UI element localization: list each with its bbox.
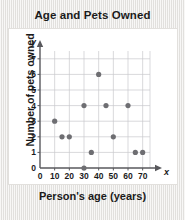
y-tick-label: 4 (26, 101, 36, 111)
y-axis-variable: y (31, 37, 36, 47)
y-tick-label: 6 (26, 69, 36, 79)
x-tick-label: 70 (138, 171, 147, 181)
chart-title: Age and Pets Owned (0, 9, 185, 21)
x-tick-label: 0 (38, 171, 43, 181)
data-point (133, 150, 138, 155)
x-axis-variable: x (164, 167, 169, 177)
data-point (140, 150, 145, 155)
x-tick-label: 40 (94, 171, 103, 181)
data-points (40, 41, 164, 168)
y-tick-label: 2 (26, 132, 36, 142)
chart-figure: Age and Pets Owned Number of pets owned … (0, 0, 185, 220)
data-point (52, 119, 57, 124)
plot-area: 01020304050607001234567xy (40, 41, 164, 168)
y-tick-label: 0 (26, 163, 36, 173)
data-point (103, 103, 108, 108)
data-point (67, 134, 72, 139)
data-point (81, 103, 86, 108)
data-point (81, 165, 86, 170)
y-tick-label: 5 (26, 85, 36, 95)
data-point (89, 150, 94, 155)
y-tick-label: 7 (26, 54, 36, 64)
y-tick-label: 1 (26, 147, 36, 157)
data-point (59, 134, 64, 139)
data-point (111, 134, 116, 139)
x-tick-label: 50 (109, 171, 118, 181)
y-tick-label: 3 (26, 116, 36, 126)
x-axis-label: Person's age (years) (0, 190, 185, 202)
x-tick-label: 60 (123, 171, 132, 181)
plot-card: Number of pets owned 0102030405060700123… (9, 29, 177, 184)
x-tick-label: 30 (79, 171, 88, 181)
x-tick-label: 20 (65, 171, 74, 181)
x-tick-label: 10 (50, 171, 59, 181)
data-point (96, 72, 101, 77)
data-point (125, 103, 130, 108)
